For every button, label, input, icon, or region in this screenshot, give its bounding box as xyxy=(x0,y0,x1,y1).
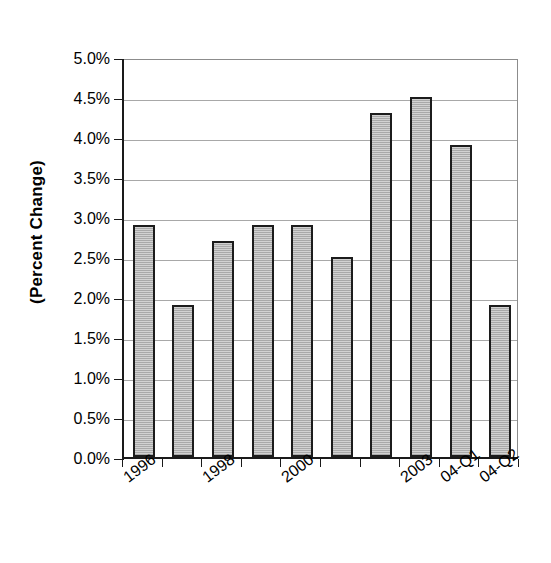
y-axis-tick xyxy=(114,299,124,300)
x-axis-tick xyxy=(241,459,242,467)
y-axis-tick xyxy=(114,339,124,340)
y-axis-tick xyxy=(114,379,124,380)
y-axis-tick xyxy=(114,419,124,420)
bar xyxy=(212,241,234,457)
y-axis-tick xyxy=(114,59,124,60)
gridline xyxy=(124,140,517,141)
y-axis-tick xyxy=(114,219,124,220)
x-axis-tick xyxy=(320,459,321,467)
x-axis-tick xyxy=(280,459,281,467)
y-axis-tick xyxy=(114,179,124,180)
bar xyxy=(410,97,432,457)
x-axis-tick xyxy=(360,459,361,467)
bar xyxy=(489,305,511,457)
x-axis-tick xyxy=(439,459,440,467)
y-axis-tick xyxy=(114,99,124,100)
chart-title-cropped xyxy=(0,0,551,14)
y-axis-label: 0.5% xyxy=(48,411,110,427)
y-axis-tick xyxy=(114,259,124,260)
y-axis-label: 4.0% xyxy=(48,131,110,147)
bar xyxy=(450,145,472,457)
x-axis-tick xyxy=(122,459,123,467)
y-axis-label: 3.5% xyxy=(48,171,110,187)
bar xyxy=(252,225,274,457)
y-axis-label: 3.0% xyxy=(48,211,110,227)
bar xyxy=(133,225,155,457)
bar xyxy=(331,257,353,457)
y-axis-tick xyxy=(114,139,124,140)
x-axis-tick xyxy=(201,459,202,467)
plot-area xyxy=(122,59,518,459)
x-axis-tick xyxy=(162,459,163,467)
bar xyxy=(291,225,313,457)
bar xyxy=(172,305,194,457)
y-axis-label: 1.0% xyxy=(48,371,110,387)
y-axis-label: 0.0% xyxy=(48,451,110,467)
y-axis-label: 2.5% xyxy=(48,251,110,267)
y-axis-label: 4.5% xyxy=(48,91,110,107)
y-axis-label: 2.0% xyxy=(48,291,110,307)
x-axis-tick xyxy=(518,459,519,467)
y-axis-label: 5.0% xyxy=(48,51,110,67)
y-axis-title: (Percent Change) xyxy=(27,117,47,347)
x-axis-tick xyxy=(399,459,400,467)
bar xyxy=(370,113,392,457)
gridline xyxy=(124,100,517,101)
y-axis-label: 1.5% xyxy=(48,331,110,347)
x-axis-tick xyxy=(478,459,479,467)
